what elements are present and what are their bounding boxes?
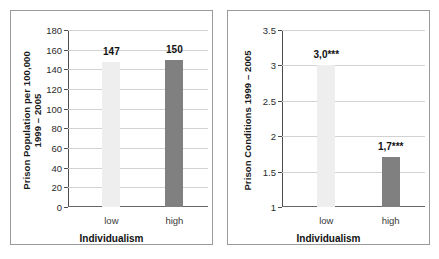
y-axis-tick-label: 120 bbox=[46, 84, 62, 95]
gridline bbox=[282, 101, 425, 102]
gridline bbox=[68, 187, 208, 188]
y-axis-tick-label: 40 bbox=[51, 162, 62, 173]
y-axis-tick-label: 140 bbox=[46, 64, 62, 75]
y-axis-tick-label: 2.5 bbox=[263, 95, 276, 106]
y-axis-tick-label: 1 bbox=[271, 202, 276, 213]
gridline bbox=[68, 128, 208, 129]
gridline bbox=[68, 168, 208, 169]
chart-panel-right: Prison Conditions 1999 – 2005 11.522.533… bbox=[227, 10, 430, 245]
y-axis-tick-label: 3 bbox=[271, 60, 276, 71]
y-axis-title-left: Prison Population per 100,000 1999 – 200… bbox=[17, 18, 47, 223]
y-axis-line-right bbox=[282, 30, 283, 207]
x-axis-category-low: low bbox=[104, 215, 118, 226]
gridline bbox=[282, 172, 425, 173]
gridline bbox=[68, 89, 208, 90]
x-axis-line-left bbox=[68, 206, 208, 208]
gridline bbox=[68, 30, 208, 31]
gridline bbox=[68, 50, 208, 51]
y-axis-tick bbox=[64, 168, 68, 169]
y-axis-tick-label: 80 bbox=[51, 123, 62, 134]
y-axis-tick bbox=[64, 30, 68, 31]
y-axis-tick bbox=[64, 187, 68, 188]
y-axis-tick bbox=[278, 172, 282, 173]
y-axis-tick-label: 20 bbox=[51, 182, 62, 193]
x-axis-title-right: Individualism bbox=[228, 233, 429, 244]
y-axis-tick-label: 60 bbox=[51, 143, 62, 154]
y-axis-tick bbox=[64, 89, 68, 90]
bar-high bbox=[165, 60, 183, 208]
bar-value-label-high: 150 bbox=[166, 44, 183, 55]
plot-area-right: 11.522.533.53,0***low1,7***high bbox=[282, 30, 425, 207]
y-axis-tick-label: 2 bbox=[271, 131, 276, 142]
figure-two-bar-charts: Prison Population per 100,000 1999 – 200… bbox=[0, 0, 439, 259]
x-axis-category-low: low bbox=[319, 215, 333, 226]
y-axis-tick bbox=[278, 30, 282, 31]
y-axis-tick bbox=[278, 65, 282, 66]
y-axis-tick bbox=[64, 69, 68, 70]
bar-value-label-low: 3,0*** bbox=[314, 49, 340, 60]
y-axis-tick bbox=[64, 128, 68, 129]
y-axis-tick bbox=[278, 136, 282, 137]
gridline bbox=[282, 65, 425, 66]
y-axis-title-right: Prison Conditions 1999 – 2005 bbox=[232, 18, 262, 223]
y-axis-tick bbox=[64, 109, 68, 110]
y-axis-tick bbox=[64, 207, 68, 208]
gridline bbox=[68, 69, 208, 70]
y-axis-tick-label: 180 bbox=[46, 25, 62, 36]
y-axis-tick-label: 1.5 bbox=[263, 166, 276, 177]
x-axis-line-right bbox=[282, 206, 425, 208]
gridline bbox=[68, 148, 208, 149]
y-axis-tick-label: 160 bbox=[46, 44, 62, 55]
chart-panel-left: Prison Population per 100,000 1999 – 200… bbox=[10, 10, 213, 245]
y-axis-tick-label: 3.5 bbox=[263, 25, 276, 36]
y-axis-tick-label: 100 bbox=[46, 103, 62, 114]
bar-low bbox=[317, 65, 335, 207]
bar-low bbox=[102, 62, 120, 207]
gridline bbox=[282, 136, 425, 137]
y-axis-tick bbox=[64, 50, 68, 51]
x-axis-category-high: high bbox=[165, 215, 183, 226]
y-axis-tick bbox=[278, 101, 282, 102]
y-axis-tick bbox=[64, 148, 68, 149]
x-axis-title-left: Individualism bbox=[11, 233, 212, 244]
bar-value-label-low: 147 bbox=[103, 46, 120, 57]
y-axis-line-left bbox=[68, 30, 69, 207]
y-axis-tick-label: 0 bbox=[57, 202, 62, 213]
gridline bbox=[68, 109, 208, 110]
bar-high bbox=[382, 157, 400, 207]
x-axis-category-high: high bbox=[382, 215, 400, 226]
gridline bbox=[282, 30, 425, 31]
y-axis-tick bbox=[278, 207, 282, 208]
plot-area-left: 020406080100120140160180147low150high bbox=[68, 30, 208, 207]
bar-value-label-high: 1,7*** bbox=[378, 141, 404, 152]
